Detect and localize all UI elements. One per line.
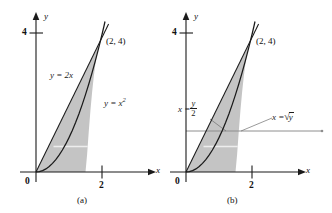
- parabola-equation-label-b: x =√y: [272, 112, 294, 122]
- x-axis-arrow-a: [148, 169, 156, 176]
- y-tick-label-4-b: 4: [172, 28, 177, 38]
- parabola-equation-exponent-a: 2: [123, 96, 126, 103]
- fraction-numerator: y: [190, 99, 196, 108]
- panel-caption-b: (b): [227, 196, 238, 205]
- parabola-equation-label-a: y = x2: [104, 97, 126, 108]
- line-equation-base-b: x =: [178, 105, 190, 114]
- y-axis-arrow-a: [33, 12, 40, 20]
- y-axis-label-b: y: [194, 12, 198, 21]
- parabola-equation-base-b: x =: [272, 113, 284, 122]
- x-axis-arrow-b: [298, 169, 306, 176]
- panel-a: y x 4 2 0 (2, 4) y = 2x y = x2 (a): [0, 0, 166, 213]
- line-equation-label-a: y = 2x: [50, 71, 73, 80]
- y-axis-label-a: y: [44, 12, 48, 21]
- x-axis-label-a: x: [156, 166, 160, 175]
- y-tick-label-4-a: 4: [22, 28, 27, 38]
- origin-label-a: 0: [25, 177, 30, 187]
- intersection-point-label-a: (2, 4): [106, 37, 126, 46]
- leader-line-to-parabola-b: [241, 118, 272, 131]
- parabola-equation-base-a: y = x: [104, 98, 123, 108]
- x-tick-label-2-a: 2: [99, 181, 104, 191]
- strip-line-endpoint-b: [321, 130, 324, 133]
- x-tick-label-2-b: 2: [249, 181, 254, 191]
- radical-sqrt-y: √y: [284, 112, 294, 122]
- radicand: y: [289, 112, 294, 122]
- fraction-y-over-2: y2: [190, 99, 196, 118]
- intersection-point-label-b: (2, 4): [256, 37, 276, 46]
- figure-container: y x 4 2 0 (2, 4) y = 2x y = x2 (a): [0, 0, 332, 213]
- panel-b: y x 4 2 0 (2, 4) x =y2 x =√y (b): [166, 0, 332, 213]
- fraction-denominator: 2: [190, 108, 196, 118]
- line-equation-label-b: x =y2: [178, 100, 197, 119]
- panel-caption-a: (a): [77, 196, 87, 205]
- origin-label-b: 0: [175, 177, 180, 187]
- y-axis-arrow-b: [183, 12, 190, 20]
- x-axis-label-b: x: [306, 166, 310, 175]
